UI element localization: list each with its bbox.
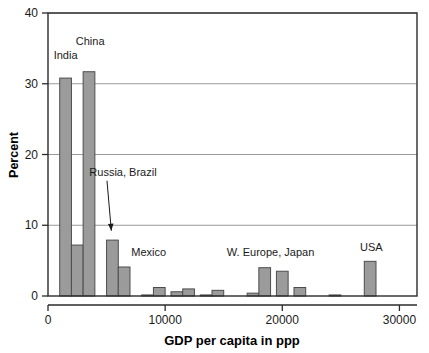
x-tick-label: 10000 [148, 313, 182, 327]
y-tick-label: 0 [31, 289, 38, 303]
histogram-figure: 010203040 0100002000030000 IndiaChinaRus… [0, 0, 429, 353]
annotation-mexico: Mexico [131, 246, 166, 258]
bar [212, 290, 224, 296]
y-tick-label: 10 [25, 218, 39, 232]
bar [153, 288, 165, 296]
annotation-india: India [54, 49, 79, 61]
bar [259, 268, 271, 296]
annotation-w-europe-japan: W. Europe, Japan [227, 246, 314, 258]
x-tick-label: 30000 [383, 313, 417, 327]
annotation-russia-brazil: Russia, Brazil [89, 166, 156, 178]
annotation-usa: USA [360, 241, 383, 253]
y-tick-label: 30 [25, 77, 39, 91]
bar [71, 245, 83, 296]
bar [294, 288, 306, 296]
y-tick-label: 40 [25, 6, 39, 20]
y-tick-label: 20 [25, 148, 39, 162]
annotation-china: China [76, 35, 106, 47]
x-tick-label: 20000 [266, 313, 300, 327]
bar [118, 267, 130, 296]
bar [60, 78, 72, 296]
bar [107, 240, 119, 296]
chart-canvas: 010203040 0100002000030000 IndiaChinaRus… [0, 0, 429, 353]
x-axis-title: GDP per capita in ppp [164, 333, 300, 348]
bar [276, 271, 288, 296]
bar [364, 261, 376, 296]
x-tick-label: 0 [45, 313, 52, 327]
y-axis-title: Percent [7, 131, 21, 178]
bar [183, 289, 195, 296]
bar [83, 72, 95, 296]
